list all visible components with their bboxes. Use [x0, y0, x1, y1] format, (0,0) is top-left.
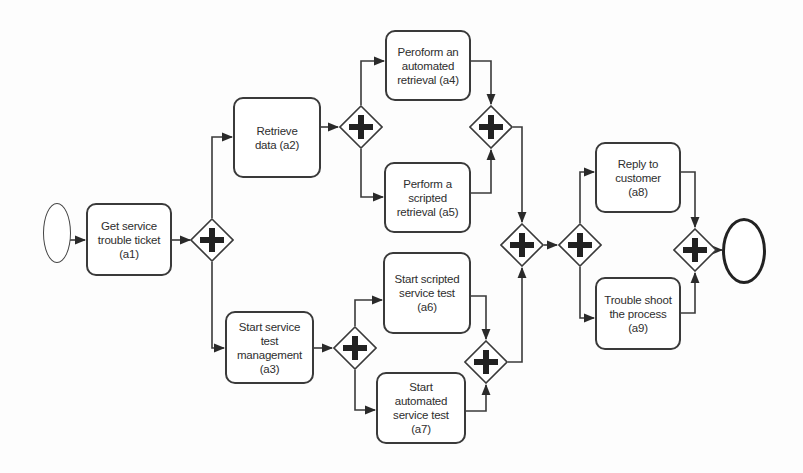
- flow-g5-g6: [508, 268, 522, 362]
- flow-a4-g3: [470, 61, 491, 104]
- gateway-g1: [190, 218, 234, 262]
- end-event: [722, 218, 766, 284]
- gateway-g3: [469, 105, 513, 149]
- flow-a9-g8: [680, 273, 695, 313]
- flow-g1-a2: [212, 137, 232, 218]
- task-a9: Trouble shoot the process (a9): [595, 277, 681, 350]
- flow-g4-a7: [355, 370, 375, 410]
- gateway-g2: [339, 105, 383, 149]
- task-a1: Get service trouble ticket (a1): [86, 203, 172, 276]
- flow-a6-g5: [470, 296, 486, 339]
- gateway-g7: [558, 223, 602, 267]
- gateway-g6: [500, 223, 544, 267]
- task-a6: Start scripted service test (a6): [383, 252, 471, 334]
- gateway-g5: [464, 340, 508, 384]
- flow-g2-a5: [361, 149, 383, 197]
- bpmn-diagram: Get service trouble ticket (a1) Retrieve…: [0, 0, 803, 473]
- flow-g7-a9: [580, 267, 594, 318]
- flow-g2-a4: [361, 61, 384, 105]
- task-a7: Start automated service test (a7): [376, 372, 466, 444]
- flow-g7-a8: [580, 172, 594, 223]
- flow-g4-a6: [355, 300, 382, 326]
- gateway-g8: [673, 228, 717, 272]
- flow-a8-g8: [680, 172, 695, 227]
- task-a5: Perform a scripted retrieval (a5): [384, 162, 471, 233]
- gateway-g4: [333, 326, 377, 370]
- flow-a7-g5: [465, 385, 486, 411]
- start-event: [43, 203, 71, 263]
- task-a4: Peroform an automated retrieval (a4): [385, 30, 471, 101]
- task-a2: Retrieve data (a2): [233, 97, 321, 178]
- flow-a5-g3: [470, 150, 491, 193]
- flow-g3-g6: [513, 127, 522, 222]
- task-a8: Reply to customer (a8): [595, 142, 681, 213]
- flow-g1-a3: [212, 262, 224, 348]
- task-a3: Start service test management (a3): [225, 311, 314, 384]
